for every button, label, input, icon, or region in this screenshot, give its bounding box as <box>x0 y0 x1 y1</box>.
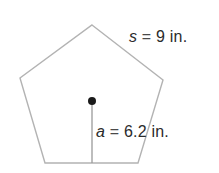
side-operator: = <box>137 28 156 45</box>
side-length-label: s = 9 in. <box>129 29 187 45</box>
center-dot <box>88 97 96 105</box>
apothem-variable: a <box>96 123 105 140</box>
apothem-length-label: a = 6.2 in. <box>96 124 169 140</box>
side-value: 9 <box>156 28 165 45</box>
apothem-operator: = <box>105 123 124 140</box>
apothem-value: 6.2 <box>124 123 147 140</box>
apothem-unit: in. <box>151 123 169 140</box>
side-unit: in. <box>170 28 188 45</box>
side-variable: s <box>129 28 137 45</box>
geometry-figure-canvas: s = 9 in. a = 6.2 in. <box>0 0 219 173</box>
pentagon-diagram-svg <box>0 0 219 173</box>
